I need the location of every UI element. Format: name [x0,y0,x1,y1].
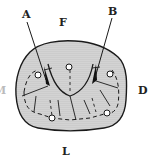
label-m-partial: M [0,85,6,96]
label-d: D [138,85,148,96]
label-a: A [22,9,31,20]
tooth-occlusal-diagram: A B F D L M [0,0,149,159]
cusp-circle [35,72,41,78]
tooth-drawing [0,0,149,159]
cusp-circle [104,110,110,116]
cusp-circle [66,64,72,70]
label-l: L [62,146,70,157]
cusp-circle [107,71,113,77]
label-b: B [108,6,117,17]
label-f: F [59,17,67,28]
cusp-circle [49,115,55,121]
